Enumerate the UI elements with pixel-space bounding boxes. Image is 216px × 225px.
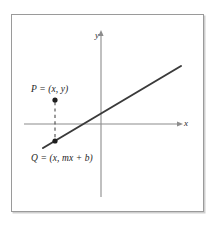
point-q-marker: [52, 138, 57, 143]
y-axis-label: y: [95, 31, 99, 40]
point-p-marker: [52, 97, 57, 102]
linear-function-line: [43, 66, 181, 148]
x-axis-label: x: [184, 119, 188, 128]
figure-graphics: [0, 0, 216, 225]
point-p-label: P = (x, y): [31, 85, 68, 95]
point-q-label: Q = (x, mx + b): [31, 154, 93, 164]
x-axis-arrowhead: [177, 122, 183, 127]
figure-root: y x P = (x, y) Q = (x, mx + b): [0, 0, 216, 225]
y-axis-arrowhead: [98, 30, 103, 36]
